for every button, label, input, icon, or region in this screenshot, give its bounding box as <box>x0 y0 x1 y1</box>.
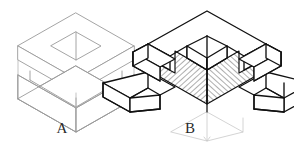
figure-b-label: B <box>185 120 195 136</box>
technical-drawing-canvas: A <box>0 0 294 145</box>
figure-a-label: A <box>57 120 68 136</box>
